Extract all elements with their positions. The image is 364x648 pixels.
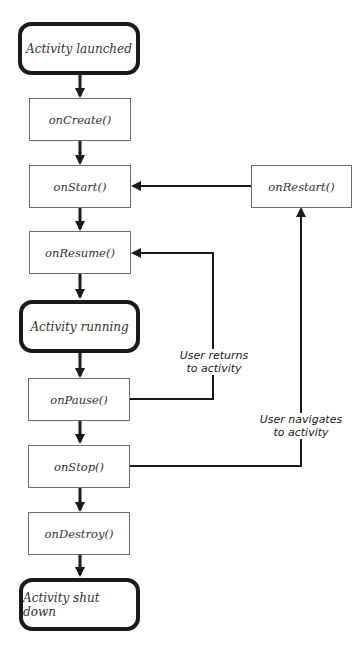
method-onstart: onStart() [29,165,131,208]
method-label: onRestart() [268,180,334,194]
state-label: Activity running [30,320,128,334]
method-label: onCreate() [49,113,112,127]
method-label: onDestroy() [45,527,114,541]
state-activity-shut-down: Activity shut down [19,578,140,631]
edge-label-line: User returns [176,349,252,362]
state-label: Activity shut down [23,591,136,619]
method-oncreate: onCreate() [29,98,131,141]
method-onresume: onResume() [29,231,131,274]
method-ondestroy: onDestroy() [28,512,130,555]
method-label: onStop() [54,460,104,474]
edge-label-user-returns: User returns to activity [176,349,252,375]
edge-label-line: to activity [176,362,252,375]
edge-label-line: to activity [255,426,347,439]
edge-label-line: User navigates [255,413,347,426]
method-onpause: onPause() [28,378,130,421]
method-onrestart: onRestart() [251,165,352,208]
state-activity-running: Activity running [19,300,140,353]
state-label: Activity launched [26,42,132,56]
method-label: onResume() [45,246,115,260]
arrow-onpause-to-onresume [130,253,213,399]
state-activity-launched: Activity launched [18,22,140,75]
edge-label-user-navigates: User navigates to activity [255,413,347,439]
method-label: onStart() [54,180,107,194]
method-onstop: onStop() [28,445,130,488]
method-label: onPause() [50,393,108,407]
